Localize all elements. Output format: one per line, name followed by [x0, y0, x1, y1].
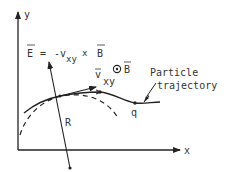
y-axis-label: y: [24, 9, 30, 20]
circular-orbit-dashed: [20, 95, 118, 135]
svg-text:xy: xy: [103, 76, 115, 87]
radius-line: [49, 62, 70, 168]
b-field-label: B: [113, 62, 131, 75]
svg-text:trajectory: trajectory: [157, 80, 217, 91]
svg-text:B: B: [124, 64, 130, 75]
particle-trajectory-curve: [24, 92, 160, 113]
svg-text:xy: xy: [66, 54, 77, 64]
charge-point: [133, 101, 136, 104]
svg-text:E: E: [27, 48, 33, 59]
svg-text:Particle: Particle: [150, 67, 198, 78]
svg-text:B: B: [97, 48, 103, 59]
velocity-label: v xy: [95, 69, 115, 87]
trajectory-callout: Particle trajectory: [144, 67, 217, 102]
svg-text:x: x: [82, 48, 88, 58]
svg-text:=: =: [40, 48, 46, 59]
x-axis-label: x: [184, 145, 190, 156]
charge-label: q: [131, 107, 137, 118]
radius-label: R: [65, 117, 72, 128]
svg-text:-v: -v: [54, 48, 66, 59]
diagram-canvas: y x E = -v xy x B R v xy B q Parti: [0, 0, 235, 172]
equation: E = -v xy x B: [27, 45, 105, 64]
center-point: [68, 166, 71, 169]
svg-text:v: v: [95, 69, 101, 80]
